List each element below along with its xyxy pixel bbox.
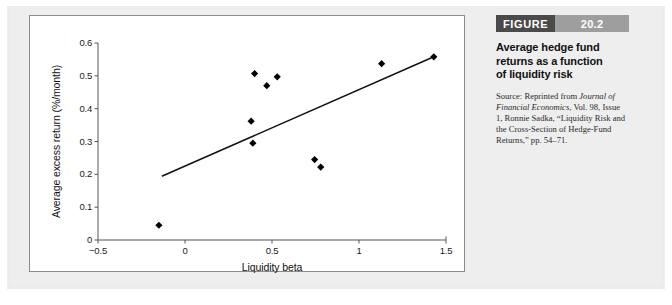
data-point-marker	[249, 140, 256, 147]
chart-box: 00.10.20.30.40.50.6−0.500.511.5Liquidity…	[29, 15, 465, 272]
plot-svg	[30, 16, 466, 273]
y-tick-label: 0.1	[60, 201, 92, 212]
data-point-marker	[263, 82, 270, 89]
figure-caption-column: FIGURE 20.2 Average hedge fund returns a…	[496, 15, 656, 147]
figure-source: Source: Reprinted from Journal of Financ…	[496, 91, 626, 147]
data-point-marker	[251, 70, 258, 77]
x-tick-label: 1.5	[421, 245, 471, 256]
x-axis-title: Liquidity beta	[98, 261, 446, 273]
trend-line	[162, 57, 433, 176]
x-tick-label: 1	[334, 245, 384, 256]
figure-panel: 00.10.20.30.40.50.6−0.500.511.5Liquidity…	[0, 0, 672, 305]
figure-badge: FIGURE 20.2	[496, 15, 629, 32]
data-point-marker	[274, 73, 281, 80]
figure-badge-number: 20.2	[555, 15, 629, 32]
x-tick-label: 0.5	[247, 245, 297, 256]
y-tick-label: 0.3	[60, 136, 92, 147]
scatter-plot	[30, 16, 466, 273]
y-tick-label: 0.6	[60, 37, 92, 48]
x-tick-label: 0	[160, 245, 210, 256]
data-point-marker	[430, 53, 437, 60]
x-tick-label: −0.5	[73, 245, 123, 256]
figure-badge-label: FIGURE	[496, 15, 555, 32]
y-tick-label: 0.5	[60, 70, 92, 81]
y-tick-label: 0.4	[60, 103, 92, 114]
data-point-marker	[378, 60, 385, 67]
source-prefix: Source: Reprinted from	[496, 91, 579, 101]
y-tick-label: 0.2	[60, 168, 92, 179]
figure-title: Average hedge fund returns as a function…	[496, 41, 614, 82]
data-point-marker	[311, 156, 318, 163]
data-point-marker	[248, 118, 255, 125]
data-point-marker	[155, 222, 162, 229]
y-axis-title: Average excess return (%/month)	[50, 41, 62, 242]
y-tick-label: 0	[60, 234, 92, 245]
data-point-marker	[317, 164, 324, 171]
data-point-group	[155, 53, 437, 229]
